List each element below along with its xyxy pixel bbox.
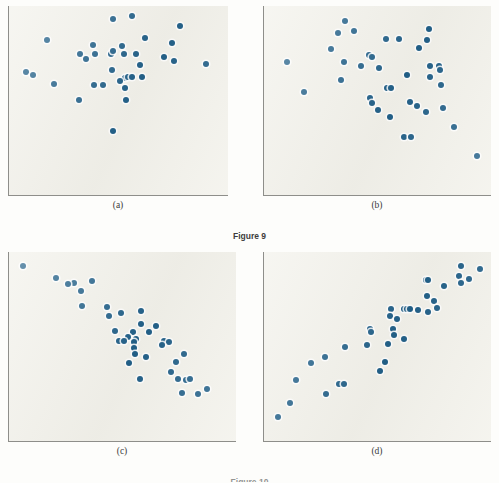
scatter-point: [458, 280, 464, 286]
figure-caption: Figure 9: [0, 231, 499, 241]
scatter-point: [376, 65, 382, 71]
scatter-point: [364, 342, 370, 348]
scatter-point: [44, 37, 50, 43]
scatter-point: [30, 72, 36, 78]
scatter-point: [203, 61, 209, 67]
scatter-point: [130, 329, 136, 335]
scatter-point: [89, 278, 95, 284]
scatter-point: [119, 43, 125, 49]
scatter-point: [92, 51, 98, 57]
scatter-point: [424, 293, 430, 299]
scatter-point: [404, 72, 410, 78]
scatter-point: [407, 306, 413, 312]
scatter-point: [137, 376, 143, 382]
scatter-point: [168, 369, 174, 375]
scatter-point: [195, 391, 201, 397]
scatter-point: [387, 313, 393, 319]
scatter-point: [401, 134, 407, 140]
panel-a-label: (a): [8, 200, 228, 210]
scatter-point: [166, 339, 172, 345]
scatter-point: [23, 69, 29, 75]
scatter-point: [76, 97, 82, 103]
scatter-point: [335, 30, 341, 36]
scatter-point: [204, 386, 210, 392]
scatter-point: [323, 391, 329, 397]
scatter-point: [78, 288, 84, 294]
panel-c-wrap: (c): [8, 252, 236, 464]
scatter-point: [408, 134, 414, 140]
scatter-point: [441, 283, 447, 289]
scatter-point: [377, 368, 383, 374]
scatter-point: [173, 359, 179, 365]
scatter-point: [466, 276, 472, 282]
scatter-point: [308, 360, 314, 366]
panel-d-wrap: (d): [263, 252, 491, 464]
scatter-point: [387, 114, 393, 120]
scatter-point: [342, 344, 348, 350]
scatter-point: [440, 105, 446, 111]
scatter-point: [179, 390, 185, 396]
scatter-point: [171, 58, 177, 64]
figure-caption-next: Figure 10: [0, 477, 499, 482]
scatter-point: [396, 36, 402, 42]
scatter-point: [416, 45, 422, 51]
scatterplot-d: [263, 252, 491, 442]
scatter-point: [368, 329, 374, 335]
scatter-point: [351, 28, 357, 34]
scatter-point: [122, 85, 128, 91]
scatter-point: [375, 107, 381, 113]
scatter-point: [53, 275, 59, 281]
figure-page: the relationship between two quantitativ…: [0, 0, 499, 483]
scatter-point: [129, 13, 135, 19]
scatter-point: [341, 59, 347, 65]
scatter-point: [322, 354, 328, 360]
scatter-point: [423, 109, 429, 115]
scatter-point: [474, 153, 480, 159]
scatter-point: [390, 326, 396, 332]
scatter-point: [338, 77, 344, 83]
scatter-point: [77, 51, 83, 57]
panel-b-label: (b): [263, 200, 491, 210]
scatter-point: [451, 124, 457, 130]
scatter-point: [437, 67, 443, 73]
scatter-point: [79, 303, 85, 309]
scatter-point: [131, 339, 137, 345]
scatter-point: [123, 97, 129, 103]
scatter-point: [275, 414, 281, 420]
scatter-point: [407, 99, 413, 105]
scatter-point: [110, 48, 116, 54]
scatter-point: [169, 40, 175, 46]
scatter-point: [153, 323, 159, 329]
scatter-point: [65, 281, 71, 287]
scatter-point: [117, 78, 123, 84]
scatter-point: [106, 313, 112, 319]
scatter-point: [369, 54, 375, 60]
scatter-point: [415, 307, 421, 313]
scatter-point: [391, 332, 397, 338]
scatter-point: [187, 376, 193, 382]
scatter-point: [143, 354, 149, 360]
scatter-point: [104, 304, 110, 310]
scatter-point: [51, 81, 57, 87]
scatter-point: [388, 306, 394, 312]
scatter-point: [328, 46, 334, 52]
scatter-point: [426, 26, 432, 32]
scatter-point: [138, 308, 144, 314]
scatter-point: [369, 100, 375, 106]
scatter-point: [458, 263, 464, 269]
scatter-point: [385, 341, 391, 347]
scatter-point: [109, 67, 115, 73]
scatter-point: [121, 338, 127, 344]
scatter-point: [129, 74, 135, 80]
scatter-point: [138, 321, 144, 327]
scatter-point: [284, 59, 290, 65]
scatter-point: [181, 351, 187, 357]
scatter-point: [438, 82, 444, 88]
scatter-point: [90, 42, 96, 48]
panel-c-label: (c): [8, 446, 236, 456]
scatter-point: [110, 16, 116, 22]
scatter-point: [382, 359, 388, 365]
scatter-point: [137, 62, 143, 68]
scatter-point: [424, 37, 430, 43]
scatter-point: [301, 89, 307, 95]
